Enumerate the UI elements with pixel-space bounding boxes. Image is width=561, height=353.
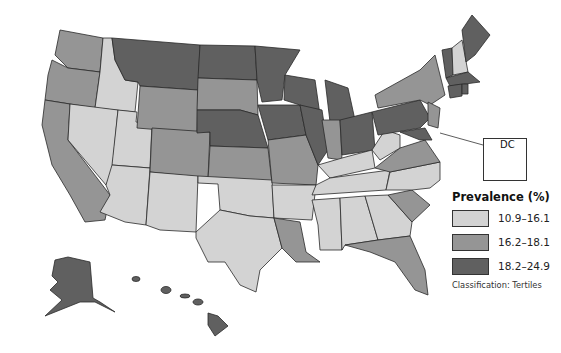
state-tx xyxy=(196,210,282,292)
state-me xyxy=(462,15,490,62)
legend-label: 16.2–18.1 xyxy=(498,236,550,248)
state-oh xyxy=(340,112,375,155)
state-vt xyxy=(442,48,453,78)
legend-item: 16.2–18.1 xyxy=(452,232,561,252)
state-ak xyxy=(45,257,115,316)
state-ia xyxy=(258,105,306,140)
state-hi-big-island xyxy=(208,313,228,336)
legend-label: 18.2–24.9 xyxy=(498,260,550,272)
dc-inset-label: DC xyxy=(500,139,515,150)
us-choropleth-map xyxy=(0,0,561,353)
state-ct xyxy=(448,84,462,98)
state-ok xyxy=(198,176,274,218)
legend-classification-note: Classification: Tertiles xyxy=(452,280,561,290)
state-hi-island xyxy=(180,294,190,298)
state-ri xyxy=(462,84,468,94)
legend-label: 10.9–16.1 xyxy=(498,212,550,224)
legend-swatch-mid xyxy=(452,234,489,251)
state-la xyxy=(274,218,320,262)
state-nd xyxy=(198,45,257,80)
legend-title: Prevalence (%) xyxy=(452,190,561,204)
legend-item: 18.2–24.9 xyxy=(452,256,561,276)
state-hi-island xyxy=(132,277,140,282)
state-ar xyxy=(272,185,316,220)
state-fl xyxy=(345,236,428,295)
state-ms xyxy=(312,198,342,250)
state-tn xyxy=(312,170,390,195)
state-sd xyxy=(197,78,258,115)
state-hi-island xyxy=(161,287,171,294)
state-wy xyxy=(137,86,198,133)
state-mi xyxy=(325,80,355,122)
dc-leader-line xyxy=(440,133,483,145)
state-nm xyxy=(146,172,198,232)
legend-swatch-low xyxy=(452,210,489,227)
legend-item: 10.9–16.1 xyxy=(452,208,561,228)
state-ny xyxy=(375,55,445,108)
legend-swatch-high xyxy=(452,258,489,275)
legend: Prevalence (%) 10.9–16.1 16.2–18.1 18.2–… xyxy=(452,190,561,290)
state-nj xyxy=(428,102,440,128)
state-hi-island xyxy=(193,299,203,305)
state-co xyxy=(150,128,210,178)
